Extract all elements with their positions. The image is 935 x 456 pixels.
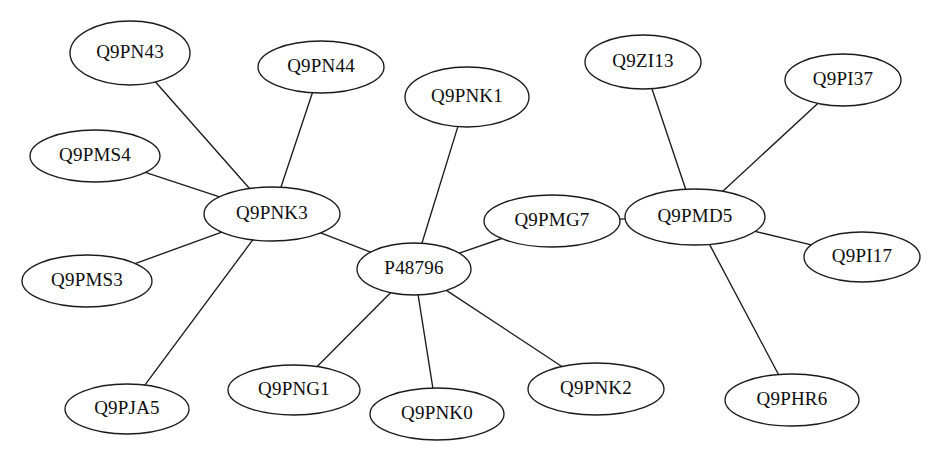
- node-q9pnk3[interactable]: Q9PNK3: [204, 187, 340, 241]
- edge-q9pms4-q9pnk3: [145, 172, 219, 196]
- node-label-q9pnk2: Q9PNK2: [560, 377, 632, 398]
- edge-q9pja5-q9pnk3: [145, 240, 253, 385]
- node-q9pms3[interactable]: Q9PMS3: [22, 255, 152, 307]
- node-label-q9pms3: Q9PMS3: [51, 269, 123, 290]
- node-label-q9phr6: Q9PHR6: [757, 388, 828, 409]
- node-label-q9pja5: Q9PJA5: [94, 397, 160, 418]
- node-label-q9zi13: Q9ZI13: [612, 50, 673, 71]
- node-q9png1[interactable]: Q9PNG1: [228, 365, 360, 415]
- edge-q9pnk3-p48796: [321, 233, 371, 252]
- edge-q9pms3-q9pnk3: [135, 232, 222, 263]
- node-q9pnk2[interactable]: Q9PNK2: [528, 363, 664, 415]
- node-q9pja5[interactable]: Q9PJA5: [65, 384, 189, 434]
- node-label-q9pnk3: Q9PNK3: [236, 202, 308, 223]
- node-q9pn44[interactable]: Q9PN44: [258, 41, 384, 93]
- node-q9pn43[interactable]: Q9PN43: [70, 21, 190, 85]
- node-q9pmd5[interactable]: Q9PMD5: [625, 189, 765, 245]
- edge-q9pn43-q9pnk3: [156, 82, 250, 189]
- node-p48796[interactable]: P48796: [357, 243, 471, 295]
- edge-q9pn44-q9pnk3: [281, 93, 312, 187]
- node-q9pnk0[interactable]: Q9PNK0: [370, 388, 504, 440]
- node-q9pms4[interactable]: Q9PMS4: [30, 130, 160, 182]
- node-label-q9pmg7: Q9PMG7: [514, 209, 589, 230]
- node-label-q9pi17: Q9PI17: [832, 245, 892, 266]
- edge-p48796-q9pnk0: [418, 295, 433, 388]
- edge-q9pmd5-q9pi17: [755, 231, 811, 244]
- node-label-p48796: P48796: [384, 257, 443, 278]
- node-label-q9pmd5: Q9PMD5: [657, 205, 732, 226]
- node-q9phr6[interactable]: Q9PHR6: [725, 374, 859, 426]
- node-label-q9pms4: Q9PMS4: [59, 144, 131, 165]
- edge-p48796-q9pmg7: [459, 239, 501, 254]
- node-label-q9pi37: Q9PI37: [813, 68, 873, 89]
- edge-p48796-q9png1: [317, 293, 390, 367]
- edge-p48796-q9pnk2: [446, 290, 561, 366]
- network-diagram-canvas: Q9PN43Q9PN44Q9PNK1Q9ZI13Q9PI37Q9PMS4Q9PN…: [0, 0, 935, 456]
- node-label-q9pnk1: Q9PNK1: [431, 85, 503, 106]
- edge-q9pmd5-q9phr6: [710, 244, 779, 374]
- node-q9zi13[interactable]: Q9ZI13: [585, 35, 701, 89]
- node-q9pi17[interactable]: Q9PI17: [804, 232, 920, 282]
- node-label-q9png1: Q9PNG1: [258, 378, 330, 399]
- node-label-q9pn43: Q9PN43: [96, 41, 164, 62]
- node-q9pmg7[interactable]: Q9PMG7: [484, 195, 620, 247]
- network-graph: Q9PN43Q9PN44Q9PNK1Q9ZI13Q9PI37Q9PMS4Q9PN…: [0, 0, 935, 456]
- edge-q9zi13-q9pmd5: [652, 89, 686, 190]
- node-label-q9pn44: Q9PN44: [287, 55, 355, 76]
- node-q9pnk1[interactable]: Q9PNK1: [405, 67, 529, 127]
- node-q9pi37[interactable]: Q9PI37: [785, 54, 901, 106]
- edge-q9pi37-q9pmd5: [723, 103, 818, 191]
- edge-q9pnk1-p48796: [422, 127, 458, 244]
- node-label-q9pnk0: Q9PNK0: [401, 402, 473, 423]
